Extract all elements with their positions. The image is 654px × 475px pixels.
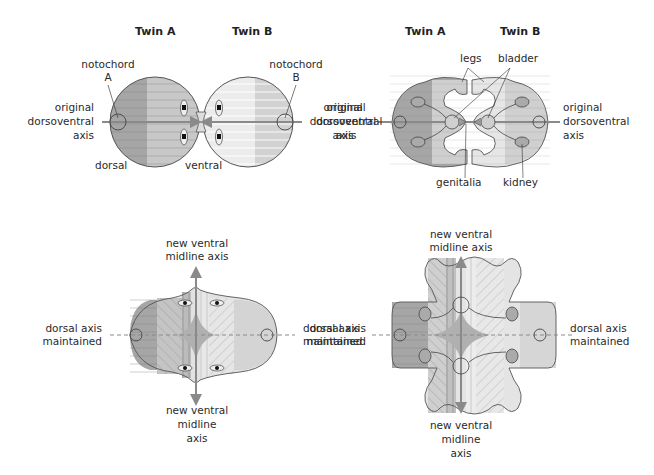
- dorsal-axis-right-label: dorsal axis maintained: [570, 322, 629, 348]
- kidney-label: kidney: [503, 176, 538, 189]
- twin-a-title: Twin A: [135, 25, 175, 38]
- dorsal-axis-left-label: dorsal axis maintained: [300, 322, 366, 348]
- notochord-a-label: notochord A: [80, 58, 136, 84]
- new-ventral-axis-top-label: new ventral midline axis: [424, 228, 498, 254]
- legs-label: legs: [460, 52, 482, 65]
- twin-b-title: Twin B: [232, 25, 272, 38]
- axis-label-left: original dorsoventral axis: [20, 100, 94, 142]
- ventral-label: ventral: [185, 159, 222, 172]
- bladder-label: bladder: [498, 52, 538, 65]
- panel-bottom-right: [372, 257, 575, 414]
- axis-label-left: original dorsoventral axis: [316, 100, 376, 142]
- new-ventral-axis-bottom-label: new ventral midline axis: [160, 403, 234, 445]
- dorsal-axis-left-label: dorsal axis maintained: [40, 322, 102, 348]
- panel-bottom-left: [110, 272, 295, 400]
- notochord-b-label: notochord B: [268, 58, 324, 84]
- twin-a-title: Twin A: [405, 25, 445, 38]
- new-ventral-axis-top-label: new ventral midline axis: [160, 237, 234, 263]
- twin-b-title: Twin B: [500, 25, 540, 38]
- new-ventral-axis-bottom-label: new ventral midline axis: [424, 418, 498, 460]
- genitalia-label: genitalia: [436, 176, 482, 189]
- panel-top-right: [378, 68, 560, 178]
- dorsal-label: dorsal: [95, 159, 127, 172]
- axis-label-right: original dorsoventral axis: [563, 100, 629, 142]
